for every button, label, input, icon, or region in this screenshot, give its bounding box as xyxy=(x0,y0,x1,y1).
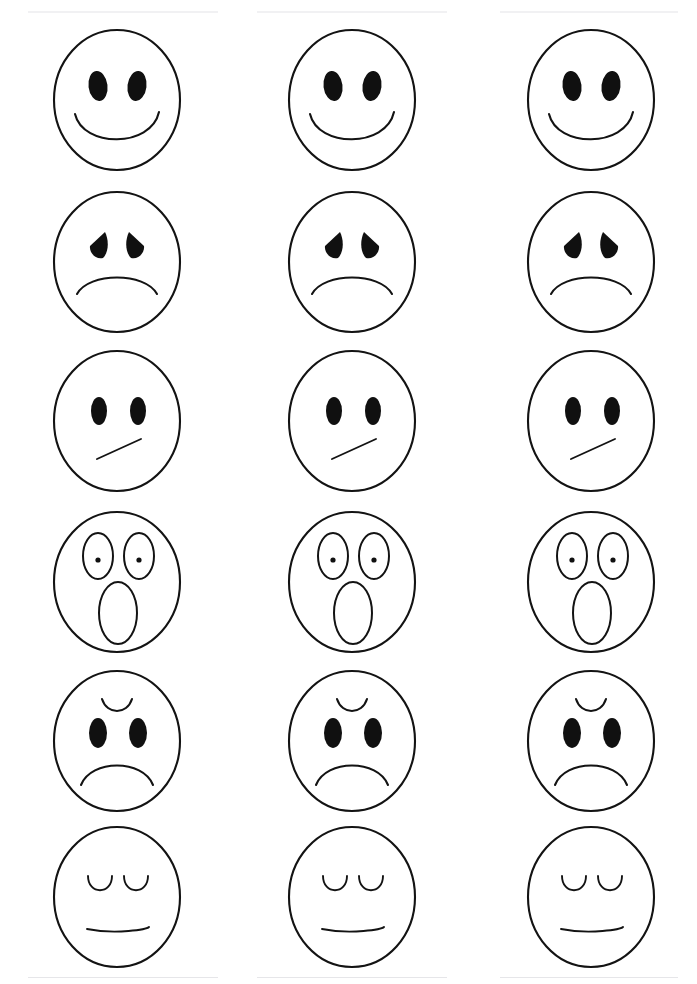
face-drawing-sleeping xyxy=(43,819,191,975)
face-drawing-skeptical xyxy=(278,343,426,499)
face-angry xyxy=(278,663,426,819)
face-drawing-surprised xyxy=(517,504,665,660)
face-happy xyxy=(278,22,426,178)
face-drawing-surprised xyxy=(43,504,191,660)
face-drawing-happy xyxy=(278,22,426,178)
face-skeptical xyxy=(43,343,191,499)
face-drawing-sad xyxy=(517,184,665,340)
face-grid xyxy=(0,0,697,984)
face-drawing-happy xyxy=(43,22,191,178)
face-surprised xyxy=(517,504,665,660)
face-drawing-angry xyxy=(43,663,191,819)
face-drawing-sad xyxy=(43,184,191,340)
face-drawing-sleeping xyxy=(278,819,426,975)
face-happy xyxy=(43,22,191,178)
face-angry xyxy=(43,663,191,819)
face-drawing-skeptical xyxy=(517,343,665,499)
face-surprised xyxy=(43,504,191,660)
face-drawing-angry xyxy=(278,663,426,819)
face-skeptical xyxy=(278,343,426,499)
face-sleeping xyxy=(43,819,191,975)
face-happy xyxy=(517,22,665,178)
face-sad xyxy=(278,184,426,340)
face-angry xyxy=(517,663,665,819)
face-drawing-sleeping xyxy=(517,819,665,975)
emotion-faces-sheet xyxy=(0,0,697,984)
face-sad xyxy=(43,184,191,340)
face-sleeping xyxy=(517,819,665,975)
face-surprised xyxy=(278,504,426,660)
face-drawing-happy xyxy=(517,22,665,178)
face-sleeping xyxy=(278,819,426,975)
face-drawing-surprised xyxy=(278,504,426,660)
face-drawing-skeptical xyxy=(43,343,191,499)
face-drawing-sad xyxy=(278,184,426,340)
face-skeptical xyxy=(517,343,665,499)
face-sad xyxy=(517,184,665,340)
face-drawing-angry xyxy=(517,663,665,819)
